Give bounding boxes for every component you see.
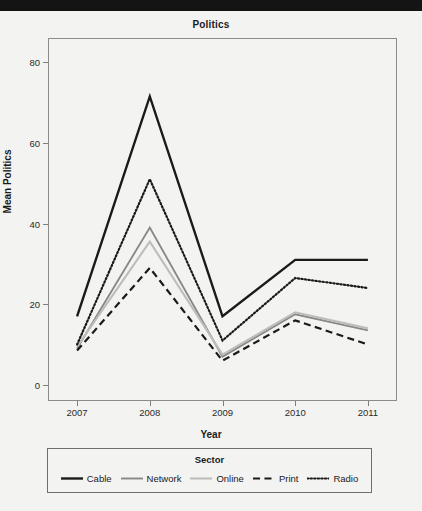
chart-figure: Politics Mean Politics 020406080 2007200… — [0, 11, 422, 511]
y-tick-mark — [43, 143, 48, 144]
series-line-online — [77, 242, 368, 355]
x-tick-label: 2010 — [273, 407, 317, 418]
y-tick-mark — [43, 62, 48, 63]
plot-lines — [48, 38, 397, 401]
legend-label: Network — [147, 473, 182, 484]
x-tick-label: 2009 — [201, 407, 245, 418]
y-tick-label: 60 — [6, 137, 40, 148]
legend-item-cable[interactable]: Cable — [61, 473, 112, 484]
x-tick-mark — [150, 401, 151, 406]
x-tick-mark — [77, 401, 78, 406]
x-tick-label: 2008 — [128, 407, 172, 418]
legend-swatch-cable-icon — [61, 474, 83, 483]
legend-swatch-print-icon — [253, 474, 275, 483]
x-tick-mark — [223, 401, 224, 406]
legend-item-network[interactable]: Network — [121, 473, 182, 484]
y-tick-mark — [43, 304, 48, 305]
legend-items: CableNetworkOnlinePrintRadio — [48, 473, 371, 484]
legend-swatch-online-icon — [190, 474, 212, 483]
legend-swatch-radio-icon — [307, 474, 329, 483]
window-titlebar — [0, 0, 422, 11]
y-tick-label: 40 — [6, 218, 40, 229]
y-tick-mark — [43, 385, 48, 386]
legend-item-print[interactable]: Print — [253, 473, 299, 484]
legend-label: Print — [279, 473, 299, 484]
x-tick-mark — [295, 401, 296, 406]
x-tick-label: 2011 — [346, 407, 390, 418]
legend-item-radio[interactable]: Radio — [307, 473, 358, 484]
legend-label: Cable — [87, 473, 112, 484]
y-tick-label: 80 — [6, 57, 40, 68]
y-tick-mark — [43, 224, 48, 225]
legend-title: Sector — [48, 454, 371, 465]
y-tick-label: 20 — [6, 299, 40, 310]
legend-item-online[interactable]: Online — [190, 473, 243, 484]
y-tick-label: 0 — [6, 379, 40, 390]
legend-swatch-network-icon — [121, 474, 143, 483]
legend: Sector CableNetworkOnlinePrintRadio — [47, 448, 372, 493]
x-axis-label: Year — [0, 429, 422, 440]
x-tick-label: 2007 — [55, 407, 99, 418]
chart-title: Politics — [0, 19, 422, 30]
x-tick-mark — [368, 401, 369, 406]
legend-label: Radio — [333, 473, 358, 484]
legend-label: Online — [216, 473, 243, 484]
